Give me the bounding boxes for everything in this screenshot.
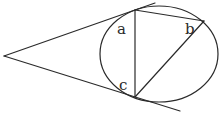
label-a: a: [117, 20, 126, 38]
upper-tangent-line: [4, 3, 155, 56]
label-b: b: [185, 20, 195, 38]
diagram-canvas: a b c: [0, 0, 220, 114]
lower-tangent-line: [4, 56, 180, 111]
label-c: c: [119, 76, 127, 94]
geometry-figure: a b c: [0, 0, 220, 114]
